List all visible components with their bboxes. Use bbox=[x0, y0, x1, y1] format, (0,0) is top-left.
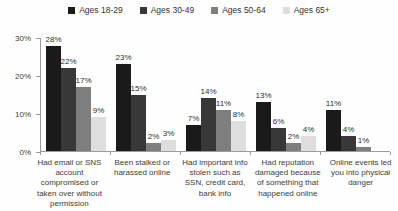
bar-group: 7%14%11%8% bbox=[181, 38, 251, 151]
bar-slot: 28% bbox=[46, 38, 61, 151]
bar-value-label: 3% bbox=[163, 130, 175, 138]
bar bbox=[116, 64, 131, 151]
legend-swatch-icon bbox=[211, 7, 218, 14]
bar-slot: 6% bbox=[271, 38, 286, 151]
bar-slot: 8% bbox=[231, 38, 246, 151]
y-tick-label: 0% bbox=[0, 148, 31, 157]
grouped-bar-chart: Ages 18-29Ages 30-49Ages 50-64Ages 65+ 3… bbox=[0, 0, 398, 211]
bar-value-label: 8% bbox=[233, 111, 245, 119]
bar-slot: 4% bbox=[341, 38, 356, 151]
bar-value-label: 6% bbox=[273, 118, 285, 126]
bar-slot: 17% bbox=[76, 38, 91, 151]
bar-value-label: 2% bbox=[288, 133, 300, 141]
bar bbox=[76, 87, 91, 151]
bar-value-label: 23% bbox=[115, 54, 131, 62]
bar-group: 28%22%17%9% bbox=[41, 38, 111, 151]
bar-value-label: 4% bbox=[343, 126, 355, 134]
y-axis: 30%20%10%0% bbox=[0, 0, 33, 211]
bar-slot: 11% bbox=[326, 38, 341, 151]
bar-group: 13%6%2%4% bbox=[251, 38, 321, 151]
bar-value-label: 28% bbox=[45, 36, 61, 44]
bar bbox=[341, 136, 356, 151]
legend-item: Ages 30-49 bbox=[140, 5, 194, 15]
y-tick-label: 10% bbox=[0, 110, 31, 119]
bar-value-label: 4% bbox=[303, 126, 315, 134]
bar bbox=[146, 143, 161, 151]
bar-value-label: 15% bbox=[130, 85, 146, 93]
bar bbox=[356, 147, 371, 151]
bar-value-label: 13% bbox=[255, 92, 271, 100]
bar-group: 11%4%1% bbox=[321, 38, 391, 151]
bar-slot: 23% bbox=[116, 38, 131, 151]
bar bbox=[256, 102, 271, 151]
legend-item: Ages 18-29 bbox=[68, 5, 122, 15]
bar bbox=[161, 140, 176, 151]
bar-slot: 2% bbox=[286, 38, 301, 151]
bar bbox=[326, 110, 341, 151]
bar bbox=[131, 95, 146, 152]
x-tick-mark bbox=[180, 152, 181, 155]
x-category-label: Had reputation damaged because of someth… bbox=[251, 158, 324, 209]
bar-slot: 9% bbox=[91, 38, 106, 151]
bar-slot: 3% bbox=[161, 38, 176, 151]
chart-legend: Ages 18-29Ages 30-49Ages 50-64Ages 65+ bbox=[0, 5, 398, 15]
bar-slot: 13% bbox=[256, 38, 271, 151]
bar bbox=[286, 143, 301, 151]
legend-swatch-icon bbox=[283, 7, 290, 14]
x-category-label: Had important info stolen such as SSN, c… bbox=[179, 158, 252, 209]
bar-value-label: 1% bbox=[358, 137, 370, 145]
bar-value-label: 9% bbox=[93, 107, 105, 115]
bar-slot: 1% bbox=[356, 38, 371, 151]
y-tick-label: 30% bbox=[0, 34, 31, 43]
x-category-label: Online events led you into physical dang… bbox=[324, 158, 397, 209]
bar-slot: 14% bbox=[201, 38, 216, 151]
legend-label: Ages 50-64 bbox=[222, 5, 265, 15]
bar-value-label: 7% bbox=[188, 115, 200, 123]
bar-slot: 2% bbox=[146, 38, 161, 151]
bar bbox=[301, 136, 316, 151]
legend-label: Ages 65+ bbox=[294, 5, 330, 15]
bar bbox=[216, 110, 231, 151]
bar-slot: 4% bbox=[301, 38, 316, 151]
bar-slot bbox=[371, 38, 386, 151]
bar-slot: 22% bbox=[61, 38, 76, 151]
x-tick-mark bbox=[320, 152, 321, 155]
bar bbox=[186, 125, 201, 151]
bar bbox=[46, 46, 61, 151]
x-axis-labels: Had email or SNS account compromised or … bbox=[33, 158, 397, 209]
legend-item: Ages 65+ bbox=[283, 5, 330, 15]
x-category-label: Had email or SNS account compromised or … bbox=[33, 158, 106, 209]
y-tick-label: 20% bbox=[0, 72, 31, 81]
bar-slot: 7% bbox=[186, 38, 201, 151]
bar-group: 23%15%2%3% bbox=[111, 38, 181, 151]
legend-label: Ages 30-49 bbox=[151, 5, 194, 15]
bar bbox=[61, 68, 76, 151]
bar-value-label: 2% bbox=[148, 133, 160, 141]
plot-area: 28%22%17%9%23%15%2%3%7%14%11%8%13%6%2%4%… bbox=[40, 38, 390, 152]
bar-slot: 11% bbox=[216, 38, 231, 151]
bar-value-label: 11% bbox=[326, 100, 341, 108]
legend-label: Ages 18-29 bbox=[79, 5, 122, 15]
x-category-label: Been stalked or harassed online bbox=[106, 158, 179, 209]
legend-item: Ages 50-64 bbox=[211, 5, 265, 15]
x-tick-mark bbox=[110, 152, 111, 155]
bar-slot: 15% bbox=[131, 38, 146, 151]
bar-value-label: 22% bbox=[60, 58, 76, 66]
x-tick-mark bbox=[250, 152, 251, 155]
x-tick-mark bbox=[40, 152, 41, 155]
bar bbox=[91, 117, 106, 151]
x-tick-mark bbox=[390, 152, 391, 155]
legend-swatch-icon bbox=[68, 7, 75, 14]
bar bbox=[271, 128, 286, 151]
bar bbox=[201, 98, 216, 151]
legend-swatch-icon bbox=[140, 7, 147, 14]
bar-value-label: 11% bbox=[216, 100, 231, 108]
bar-value-label: 14% bbox=[200, 88, 216, 96]
bar bbox=[231, 121, 246, 151]
bar-value-label: 17% bbox=[75, 77, 91, 85]
